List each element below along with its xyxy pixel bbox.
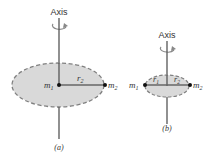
caption-a: (a) (54, 143, 64, 152)
mass1-a (57, 83, 61, 87)
radius2-label-b: r2 (174, 75, 180, 85)
mass2-label-a: m2 (108, 80, 118, 91)
mass2-label-b: m2 (193, 80, 203, 91)
caption-b: (b) (162, 124, 172, 133)
mass2-a (103, 83, 107, 87)
rotation-arrow-icon (52, 23, 68, 29)
mass2-b (188, 83, 192, 87)
mass1-label-b: m1 (129, 80, 139, 91)
rotation-diagram: Axis m1 r2 m2 (a) Axis (0, 0, 217, 164)
figure-b: Axis m1 r1 r2 m2 (b) (129, 30, 203, 133)
figure-a: Axis m1 r2 m2 (a) (12, 7, 118, 152)
axis-label-a: Axis (50, 7, 68, 17)
rotation-arrow-icon (160, 46, 176, 52)
axis-label-b: Axis (158, 30, 176, 40)
mass1-b (143, 83, 147, 87)
